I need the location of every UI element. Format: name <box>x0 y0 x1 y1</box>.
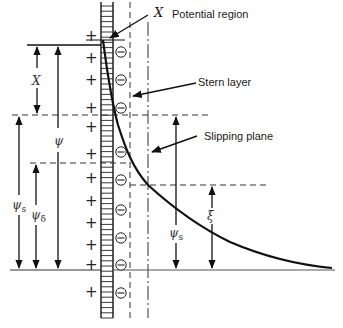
pointer-stern-layer <box>133 83 196 96</box>
negative-ions <box>116 47 126 298</box>
diagram-graphics: ++++++++++++ <box>0 0 343 328</box>
positive-charge: + <box>85 118 98 136</box>
positive-charge: + <box>85 214 98 232</box>
potential-region-symbol: X <box>154 6 163 19</box>
particle-surface-hatch <box>101 2 113 318</box>
positive-charge: + <box>85 71 98 89</box>
zeta-symbol: ξ <box>207 209 214 223</box>
psi-symbol: ψ <box>54 134 63 148</box>
potential-region-label: Potential region <box>172 9 248 20</box>
positive-charge: + <box>85 236 98 254</box>
psi-s-right-symbol: ψs <box>169 226 183 243</box>
positive-charges: ++++++++++++ <box>85 27 98 301</box>
stern-layer-label: Stern layer <box>198 77 251 88</box>
x-distance-symbol: X <box>32 74 41 88</box>
pointer-slipping-plane <box>152 136 197 152</box>
double-layer-diagram: ++++++++++++ X Potential region Stern la… <box>0 0 343 328</box>
positive-charge: + <box>85 192 98 210</box>
positive-charge: + <box>85 27 98 45</box>
pointer-potential-region <box>110 15 148 38</box>
positive-charge: + <box>85 283 98 301</box>
positive-charge: + <box>85 99 98 117</box>
positive-charge: + <box>85 145 98 163</box>
potential-decay-curve <box>103 40 332 268</box>
psi-delta-symbol: ψδ <box>31 208 46 225</box>
positive-charge: + <box>85 256 98 274</box>
positive-charge: + <box>85 49 98 67</box>
positive-charge: + <box>85 169 98 187</box>
slipping-plane-label: Slipping plane <box>204 131 273 142</box>
psi-s-left-symbol: ψs <box>12 198 26 215</box>
